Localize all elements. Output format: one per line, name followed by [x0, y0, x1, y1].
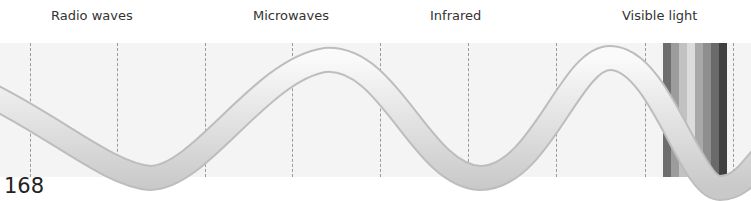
spectrum-label: Microwaves	[253, 8, 329, 23]
spectrum-label: Visible light	[622, 8, 697, 23]
spectrum-label: Infrared	[430, 8, 481, 23]
spectrum-label: Radio waves	[51, 8, 133, 23]
page-number: 168	[4, 174, 44, 198]
wave-ribbon	[0, 0, 751, 201]
